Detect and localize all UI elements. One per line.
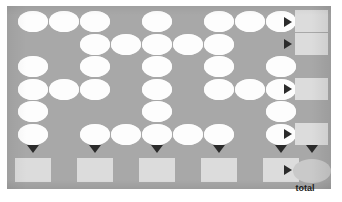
grid-cell-oval[interactable] bbox=[18, 56, 48, 77]
grid-cell-oval[interactable] bbox=[142, 124, 172, 145]
column-sum-arrow-icon bbox=[151, 145, 163, 153]
grid-cell-oval[interactable] bbox=[266, 101, 296, 122]
column-sum-box[interactable] bbox=[201, 158, 237, 182]
grid-cell-oval[interactable] bbox=[173, 124, 203, 145]
grid-cell-oval[interactable] bbox=[204, 34, 234, 55]
row-sum-arrow-icon bbox=[284, 39, 292, 49]
grid-cell-oval[interactable] bbox=[49, 11, 79, 32]
column-sum-arrow-icon bbox=[89, 145, 101, 153]
grid-cell-oval[interactable] bbox=[235, 79, 265, 100]
total-label: total bbox=[296, 184, 315, 193]
grid-cell-oval[interactable] bbox=[235, 11, 265, 32]
row-sum-box[interactable] bbox=[295, 123, 328, 145]
grid-cell-oval[interactable] bbox=[204, 79, 234, 100]
grid-cell-oval[interactable] bbox=[111, 124, 141, 145]
grid-cell-oval[interactable] bbox=[18, 11, 48, 32]
grid-cell-oval[interactable] bbox=[204, 124, 234, 145]
grid-cell-oval[interactable] bbox=[204, 56, 234, 77]
row-sum-arrow-icon bbox=[284, 17, 292, 27]
column-sum-box[interactable] bbox=[15, 158, 51, 182]
worksheet-page: total bbox=[0, 0, 342, 202]
grid-cell-oval[interactable] bbox=[142, 79, 172, 100]
grid-cell-oval[interactable] bbox=[204, 11, 234, 32]
total-down-arrow-icon bbox=[306, 145, 318, 153]
grid-cell-oval[interactable] bbox=[142, 101, 172, 122]
grand-total-oval[interactable] bbox=[293, 159, 331, 183]
grid-cell-oval[interactable] bbox=[173, 34, 203, 55]
grid-cell-oval[interactable] bbox=[80, 34, 110, 55]
grid-cell-oval[interactable] bbox=[80, 79, 110, 100]
grid-cell-oval[interactable] bbox=[142, 56, 172, 77]
grid-cell-oval[interactable] bbox=[111, 34, 141, 55]
puzzle-panel: total bbox=[7, 6, 331, 189]
grid-cell-layer: total bbox=[7, 6, 331, 189]
column-sum-arrow-icon bbox=[27, 145, 39, 153]
row-sum-arrow-icon bbox=[284, 129, 292, 139]
grid-cell-oval[interactable] bbox=[142, 11, 172, 32]
row-sum-box[interactable] bbox=[295, 10, 328, 32]
row-sum-box[interactable] bbox=[295, 33, 328, 55]
grid-cell-oval[interactable] bbox=[80, 124, 110, 145]
grid-cell-oval[interactable] bbox=[49, 79, 79, 100]
grid-cell-oval[interactable] bbox=[142, 34, 172, 55]
grid-cell-oval[interactable] bbox=[80, 11, 110, 32]
column-sum-box[interactable] bbox=[139, 158, 175, 182]
column-sum-arrow-icon bbox=[275, 145, 287, 153]
grid-cell-oval[interactable] bbox=[18, 79, 48, 100]
row-sum-box[interactable] bbox=[295, 78, 328, 100]
row-sum-arrow-icon bbox=[284, 84, 292, 94]
grid-cell-oval[interactable] bbox=[18, 101, 48, 122]
grid-cell-oval[interactable] bbox=[266, 56, 296, 77]
total-right-arrow-icon bbox=[284, 165, 292, 175]
column-sum-box[interactable] bbox=[77, 158, 113, 182]
column-sum-arrow-icon bbox=[213, 145, 225, 153]
grid-cell-oval[interactable] bbox=[80, 56, 110, 77]
grid-cell-oval[interactable] bbox=[18, 124, 48, 145]
